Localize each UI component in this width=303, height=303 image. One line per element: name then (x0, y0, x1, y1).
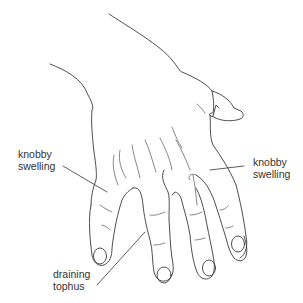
hand-outline-top (109, 14, 243, 121)
leader-bottom (97, 232, 145, 285)
finger-ring (133, 170, 173, 281)
label-knobby-swelling-right: knobby swelling (253, 156, 290, 180)
label-right-line1: knobby (253, 156, 290, 168)
fingernail-index (232, 236, 245, 252)
hand-outline-left (50, 64, 96, 205)
thumb-outline (212, 91, 219, 116)
leader-left (63, 166, 107, 192)
finger-little (89, 188, 133, 265)
fingernail-ring (157, 267, 171, 283)
label-left-line2: swelling (18, 160, 55, 172)
label-left-line1: knobby (18, 148, 55, 160)
label-knobby-swelling-left: knobby swelling (18, 148, 55, 172)
finger-middle (172, 188, 214, 279)
fingernail-little (94, 248, 107, 264)
fingernail-middle (203, 260, 216, 276)
label-right-line2: swelling (253, 168, 290, 180)
label-draining-tophus: draining tophus (53, 268, 90, 292)
label-bottom-line2: tophus (53, 280, 90, 292)
finger-index (196, 175, 247, 261)
label-bottom-line1: draining (53, 268, 90, 280)
